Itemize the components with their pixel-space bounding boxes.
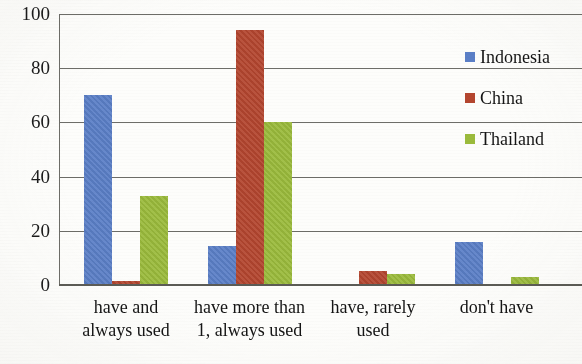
legend-label: China	[480, 89, 523, 107]
legend-swatch-icon	[465, 134, 475, 144]
category-label-line: 1, always used	[180, 319, 320, 342]
legend-item-indonesia: Indonesia	[465, 36, 550, 77]
category-label-line: have, rarely	[303, 296, 443, 319]
chart-legend: IndonesiaChinaThailand	[465, 36, 550, 159]
category-label-line: have more than	[180, 296, 320, 319]
category-label-line: used	[303, 319, 443, 342]
x-axis-category-label: have, rarelyused	[303, 296, 443, 342]
category-label-line: don't have	[427, 296, 567, 319]
x-axis-category-labels: have andalways usedhave more than1, alwa…	[59, 296, 582, 356]
x-axis-category-label: have andalways used	[56, 296, 196, 342]
legend-label: Indonesia	[480, 48, 550, 66]
y-axis-tick-label: 60	[0, 112, 50, 131]
y-axis-tick-label: 40	[0, 167, 50, 186]
chart-figure: 020406080100 have andalways usedhave mor…	[0, 0, 582, 364]
y-axis-tick-label: 0	[0, 275, 50, 294]
category-label-line: always used	[56, 319, 196, 342]
y-axis-tick-label: 20	[0, 221, 50, 240]
x-axis-category-label: don't have	[427, 296, 567, 319]
legend-label: Thailand	[480, 130, 544, 148]
category-label-line: have and	[56, 296, 196, 319]
legend-item-thailand: Thailand	[465, 118, 550, 159]
legend-swatch-icon	[465, 52, 475, 62]
y-axis-tick-label: 100	[0, 4, 50, 23]
y-axis-tick-label: 80	[0, 58, 50, 77]
legend-swatch-icon	[465, 93, 475, 103]
x-axis-category-label: have more than1, always used	[180, 296, 320, 342]
legend-item-china: China	[465, 77, 550, 118]
